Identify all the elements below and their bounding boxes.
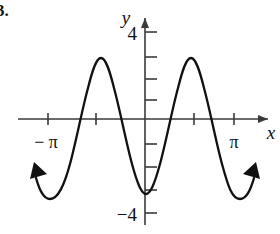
x-tick-label-pi: π	[229, 132, 238, 152]
y-tick-label-4: 4	[128, 23, 138, 44]
curve-right-arrow-icon	[243, 162, 260, 179]
y-tick-label-neg-4: −4	[117, 204, 138, 225]
y-axis-arrow-icon	[141, 18, 149, 28]
x-tick-label-neg-pi: − π	[34, 132, 58, 152]
curve-left-arrow-icon	[30, 162, 47, 179]
x-axis-label: x	[266, 122, 276, 143]
exercise-number: 3.	[0, 2, 9, 19]
coordinate-plane-svg: y x 4 −4 − π π	[0, 0, 280, 234]
graph-figure: 3. y x 4 −4	[0, 0, 280, 234]
